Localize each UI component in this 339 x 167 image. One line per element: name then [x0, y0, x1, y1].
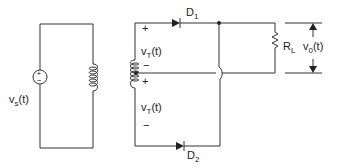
diode-d2: D2: [176, 79, 220, 164]
load-resistor: RL: [272, 23, 296, 73]
voltage-source: + −: [33, 69, 47, 85]
rl-label: RL: [283, 40, 296, 55]
vt-bottom-plus: +: [142, 75, 148, 87]
d1-label: D1: [186, 6, 199, 21]
secondary-wire-bottom: [135, 88, 176, 146]
vt-bottom-minus: −: [143, 119, 149, 131]
secondary-circuit: + vT(t) − + vT(t) −: [131, 22, 276, 146]
diode-d1: D1: [172, 6, 275, 28]
primary-wire-bottom: [40, 84, 93, 148]
d2-label: D2: [187, 149, 200, 164]
arrow-down-icon: [309, 66, 317, 73]
circuit-diagram: + − vs(t) + vT(t) − + vT(t) − D1 D2: [0, 0, 339, 167]
arrow-up-icon: [309, 23, 317, 30]
primary-circuit: + − vs(t): [9, 24, 98, 148]
vt-bottom-label: vT(t): [141, 101, 162, 116]
source-label: vs(t): [9, 93, 29, 108]
vt-top-plus: +: [142, 22, 148, 34]
vo-label: v0(t): [303, 40, 323, 55]
crossover-wire: [219, 23, 222, 79]
primary-wire-top: [40, 24, 93, 70]
source-minus: −: [37, 76, 42, 85]
vt-top-label: vT(t): [141, 45, 162, 60]
primary-inductor: [89, 64, 97, 91]
vt-top-minus: −: [143, 59, 149, 71]
